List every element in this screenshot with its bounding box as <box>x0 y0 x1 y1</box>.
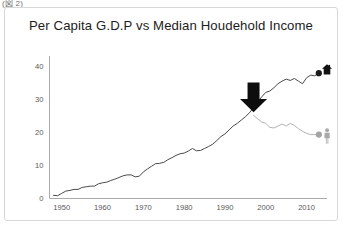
chart-figure-card: Per Capita G.D.P vs Median Houdehold Inc… <box>4 7 338 221</box>
house-icon <box>322 64 332 74</box>
x-tick-label: 1970 <box>135 203 152 212</box>
y-axis-group: 010203040 <box>35 56 49 203</box>
chart-plot-area: 010203040 1950196019701980199020002010 <box>5 8 339 222</box>
x-tick-label: 2000 <box>257 203 274 212</box>
y-tick-label: 20 <box>35 128 43 137</box>
series-line-median-household-income <box>254 115 319 134</box>
y-tick-labels: 010203040 <box>35 62 43 203</box>
gdp-endpoint-marker <box>316 70 322 76</box>
income-endpoint-marker <box>316 131 322 137</box>
x-axis-group: 1950196019701980199020002010 <box>50 199 328 213</box>
x-tick-label: 1990 <box>217 203 234 212</box>
x-tick-label: 1980 <box>176 203 193 212</box>
series-line-per-capita-gdp <box>54 73 319 196</box>
down-arrow-annotation-icon <box>240 82 267 112</box>
x-tick-label: 1950 <box>53 203 70 212</box>
y-tick-label: 10 <box>35 161 43 170</box>
y-tick-label: 40 <box>35 62 43 71</box>
person-icon <box>325 128 330 143</box>
x-tick-label: 2010 <box>298 203 315 212</box>
y-tick-label: 30 <box>35 95 43 104</box>
x-tick-labels: 1950196019701980199020002010 <box>53 203 315 212</box>
y-tick-label: 0 <box>39 194 43 203</box>
x-tick-label: 1960 <box>94 203 111 212</box>
